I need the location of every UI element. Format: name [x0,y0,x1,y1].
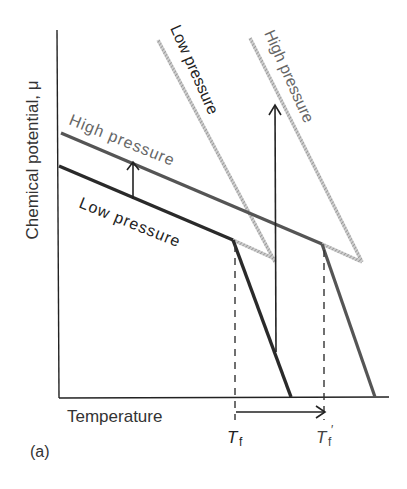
solid-low-pressure-label: Low pressure [77,194,184,250]
liquid-pressure-arrow [269,105,281,352]
x-axis-label: Temperature [67,407,162,426]
svg-text:T: T [227,428,239,447]
svg-text:T: T [316,428,328,447]
y-axis [57,30,59,398]
liquid-high-pressure-line [250,38,362,262]
svg-text:f: f [239,435,243,449]
panel-label: (a) [30,443,50,460]
liquid-low-pressure-line [158,40,275,262]
melting-point-shift-arrow [236,406,325,418]
phase-diagram: Chemical potential, μ Temperature (a) Hi… [0,0,407,489]
y-axis-label: Chemical potential, μ [23,80,42,239]
liquid-low-pressure-stable [233,240,291,397]
svg-text:′: ′ [331,423,334,437]
tf-prime-label: T f ′ [316,423,334,449]
liquid-high-pressure-stable [322,244,375,397]
svg-text:f: f [328,435,332,449]
x-axis [59,397,389,398]
tf-label: T f [227,428,243,449]
solid-pressure-arrow [127,162,139,199]
solid-high-pressure-line [61,133,322,244]
